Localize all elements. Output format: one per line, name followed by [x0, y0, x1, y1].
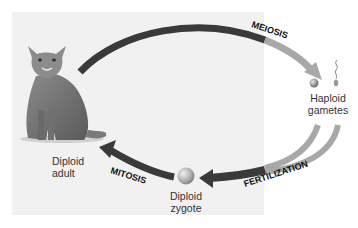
diploid-zygote-line2: zygote	[162, 202, 210, 214]
diploid-adult-line2: adult	[52, 167, 84, 179]
diploid-zygote-line1: Diploid	[162, 190, 210, 202]
diploid-adult-label: Diploid adult	[52, 155, 84, 179]
haploid-gametes-line2: gametes	[303, 104, 353, 116]
diploid-adult-line1: Diploid	[52, 155, 84, 167]
haploid-gametes-line1: Haploid	[303, 92, 353, 104]
diploid-zygote-label: Diploid zygote	[162, 190, 210, 214]
zygote-cell-icon	[178, 168, 195, 185]
haploid-gametes-label: Haploid gametes	[303, 92, 353, 116]
